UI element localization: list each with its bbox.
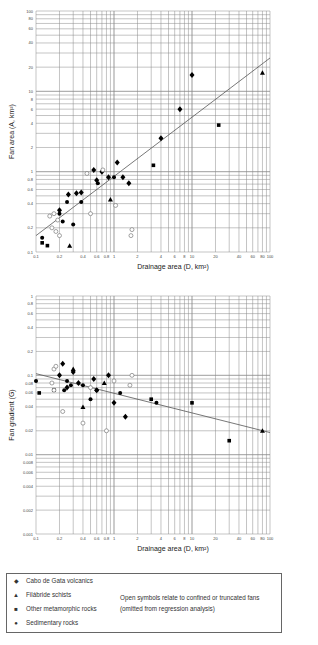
svg-text:Fan gradient (G): Fan gradient (G) [8, 389, 16, 440]
legend-item-metamorphic: ■Other metamorphic rocks [11, 605, 97, 612]
svg-text:60: 60 [29, 26, 34, 31]
svg-text:0.8: 0.8 [104, 536, 110, 541]
svg-text:0.01: 0.01 [25, 452, 34, 457]
svg-text:0.08: 0.08 [25, 381, 34, 386]
svg-text:100: 100 [26, 9, 33, 14]
svg-text:80: 80 [29, 16, 34, 21]
svg-text:2: 2 [31, 145, 34, 150]
svg-text:10: 10 [29, 89, 34, 94]
svg-text:0.2: 0.2 [57, 536, 63, 541]
svg-text:2: 2 [136, 254, 139, 259]
svg-text:0.4: 0.4 [27, 325, 33, 330]
legend-item-volcanics: ◆Cabo de Gata volcanics [11, 577, 93, 584]
svg-text:10: 10 [190, 254, 195, 259]
svg-text:80: 80 [260, 254, 265, 259]
svg-text:Drainage area (D, km²): Drainage area (D, km²) [137, 263, 209, 271]
legend-item-sedimentary: ●Sedimentary rocks [11, 619, 78, 626]
svg-text:0.1: 0.1 [33, 536, 39, 541]
svg-text:0.8: 0.8 [27, 177, 33, 182]
svg-text:0.004: 0.004 [23, 484, 34, 489]
svg-text:0.6: 0.6 [27, 187, 33, 192]
svg-text:60: 60 [250, 536, 255, 541]
svg-text:4: 4 [31, 121, 34, 126]
svg-text:0.6: 0.6 [27, 311, 33, 316]
svg-text:0.6: 0.6 [94, 254, 100, 259]
svg-text:1: 1 [31, 169, 34, 174]
svg-text:100: 100 [267, 536, 274, 541]
svg-text:20: 20 [29, 65, 34, 70]
svg-text:0.2: 0.2 [57, 254, 63, 259]
circle-icon: ● [11, 620, 21, 626]
svg-text:Fan area (A, km²): Fan area (A, km²) [8, 104, 16, 159]
svg-text:10: 10 [190, 536, 195, 541]
svg-text:6: 6 [174, 536, 177, 541]
svg-text:1: 1 [113, 254, 116, 259]
svg-text:0.6: 0.6 [94, 536, 100, 541]
legend-item-schists: ▲Filábride schists [11, 591, 71, 598]
svg-text:0.006: 0.006 [23, 470, 34, 475]
svg-text:1: 1 [113, 536, 116, 541]
svg-text:1: 1 [31, 294, 34, 299]
svg-text:0.1: 0.1 [33, 254, 39, 259]
svg-text:0.02: 0.02 [25, 428, 34, 433]
svg-text:40: 40 [29, 40, 34, 45]
svg-text:6: 6 [31, 107, 34, 112]
svg-text:0.06: 0.06 [25, 390, 34, 395]
triangle-icon: ▲ [11, 592, 21, 598]
svg-text:8: 8 [183, 254, 186, 259]
svg-text:40: 40 [237, 536, 242, 541]
svg-text:40: 40 [237, 254, 242, 259]
svg-text:4: 4 [160, 536, 163, 541]
svg-text:0.008: 0.008 [23, 460, 34, 465]
svg-text:Drainage area (D, km²): Drainage area (D, km²) [137, 545, 209, 553]
fan-gradient-chart: 0.10.20.40.60.81246810204060801000.0010.… [0, 280, 318, 570]
svg-text:0.002: 0.002 [23, 508, 34, 513]
svg-text:100: 100 [267, 254, 274, 259]
svg-text:60: 60 [250, 254, 255, 259]
legend: ◆Cabo de Gata volcanics ▲Filábride schis… [6, 573, 282, 633]
svg-text:20: 20 [213, 254, 218, 259]
diamond-icon: ◆ [11, 577, 21, 584]
square-icon: ■ [11, 606, 21, 612]
svg-text:0.2: 0.2 [27, 349, 33, 354]
svg-text:8: 8 [31, 97, 34, 102]
svg-text:4: 4 [160, 254, 163, 259]
legend-note: Open symbols relate to confined or trunc… [120, 592, 259, 614]
svg-text:0.8: 0.8 [104, 254, 110, 259]
svg-text:0.1: 0.1 [27, 373, 33, 378]
svg-text:0.4: 0.4 [80, 536, 86, 541]
svg-text:0.04: 0.04 [25, 404, 34, 409]
svg-text:6: 6 [174, 254, 177, 259]
fan-area-chart: 0.10.20.40.60.81246810204060801000.10.20… [0, 0, 318, 290]
svg-text:0.4: 0.4 [27, 201, 33, 206]
svg-text:0.001: 0.001 [23, 532, 34, 537]
svg-text:0.4: 0.4 [80, 254, 86, 259]
svg-text:80: 80 [260, 536, 265, 541]
svg-text:20: 20 [213, 536, 218, 541]
svg-text:0.2: 0.2 [27, 225, 33, 230]
svg-text:8: 8 [183, 536, 186, 541]
svg-text:0.1: 0.1 [27, 250, 33, 255]
svg-text:0.8: 0.8 [27, 301, 33, 306]
svg-text:2: 2 [136, 536, 139, 541]
